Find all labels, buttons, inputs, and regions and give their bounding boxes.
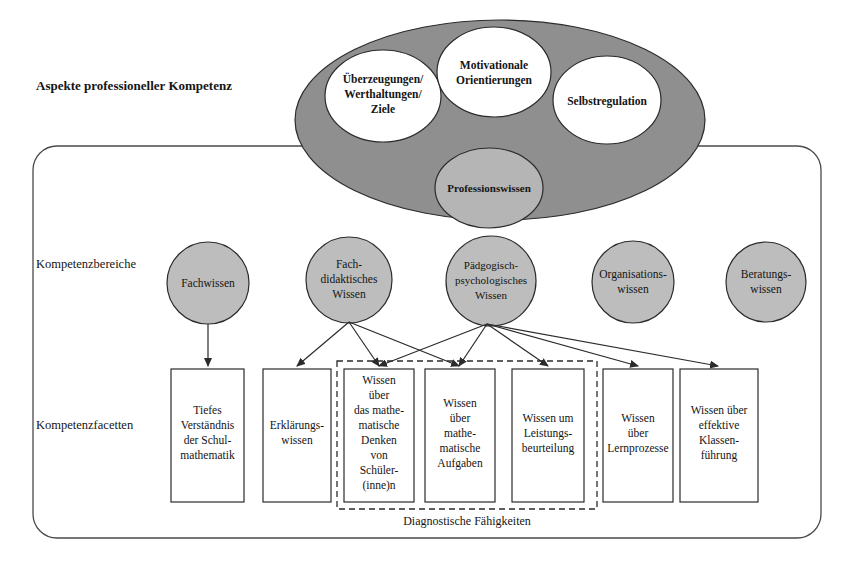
facet-box-mathematische-aufgaben-line-3: matische bbox=[440, 442, 481, 454]
competence-circle-beratungswissen-line-0: Beratungs- bbox=[741, 268, 792, 281]
facet-box-mathematische-aufgaben-line-4: Aufgaben bbox=[437, 457, 483, 470]
facet-box-erklaerungswissen: Erklärungs- wissen bbox=[263, 369, 331, 502]
competence-circle-paedgogisch-psychologisches-wissen-line-1: psychologisches bbox=[455, 274, 527, 286]
facet-box-mathematisches-denken-line-1: über bbox=[369, 389, 390, 401]
aspect-ellipse-motivationale-line-1: Orientierungen bbox=[456, 74, 533, 87]
facet-box-klassenfuehrung-line-1: effektive bbox=[699, 419, 740, 431]
facet-box-mathematisches-denken-line-4: Denken bbox=[361, 434, 397, 446]
competence-circle-fachwissen: Fachwissen bbox=[167, 242, 249, 324]
facet-box-leistungsbeurteilung-line-2: beurteilung bbox=[522, 442, 575, 455]
arrow-paedgogisch-to-lernprozesse bbox=[487, 324, 638, 366]
facet-box-lernprozesse: Wissen über Lernprozesse bbox=[603, 369, 673, 502]
arrow-paedgogisch-to-mathematisches-denken bbox=[379, 324, 487, 366]
facet-box-mathematisches-denken: Wissen über das mathe- matische Denken v… bbox=[344, 369, 414, 502]
facet-box-leistungsbeurteilung: Wissen um Leistungs- beurteilung bbox=[512, 369, 584, 502]
facet-box-klassenfuehrung-line-2: Klassen- bbox=[699, 434, 739, 446]
facet-box-erklaerungswissen-line-0: Erklärungs- bbox=[270, 419, 324, 432]
aspect-ellipse-selbstregulation: Selbstregulation bbox=[553, 56, 661, 144]
competence-circle-paedgogisch-psychologisches-wissen-line-2: Wissen bbox=[475, 289, 507, 301]
facet-box-mathematische-aufgaben-line-0: Wissen bbox=[443, 397, 477, 409]
competence-circle-beratungswissen-line-1: wissen bbox=[750, 283, 782, 295]
facet-box-tiefes-verstaendnis-line-3: mathematik bbox=[180, 449, 235, 461]
facet-box-lernprozesse-line-1: über bbox=[628, 427, 649, 439]
facet-box-tiefes-verstaendnis-line-1: Verständnis bbox=[181, 419, 235, 431]
arrow-paedgogisch-to-mathematische-aufgaben bbox=[459, 324, 487, 366]
facet-box-tiefes-verstaendnis-line-2: der Schul- bbox=[184, 434, 232, 446]
competence-circle-fachwissen-line-0: Fachwissen bbox=[181, 277, 235, 289]
competence-circle-organisationswissen-line-1: wissen bbox=[617, 283, 649, 295]
facet-box-mathematische-aufgaben: Wissen über mathe- matische Aufgaben bbox=[425, 369, 495, 502]
competence-circle-fachdidaktisches-wissen-line-2: Wissen bbox=[332, 288, 366, 300]
facet-box-lernprozesse-line-0: Wissen bbox=[621, 412, 655, 424]
facet-box-klassenfuehrung: Wissen über effektive Klassen- führung bbox=[680, 369, 758, 502]
arrow-paedgogisch-to-klassenfuehrung bbox=[487, 324, 718, 366]
competence-circle-beratungswissen: Beratungs- wissen bbox=[726, 242, 806, 322]
competence-circle-fachdidaktisches-wissen: Fach- didaktisches Wissen bbox=[306, 237, 392, 323]
competence-circle-fachdidaktisches-wissen-line-0: Fach- bbox=[336, 258, 362, 270]
diagram-canvas: Aspekte professioneller Kompetenz Kompet… bbox=[0, 0, 852, 566]
professionswissen-ellipse: Professionswissen bbox=[435, 148, 543, 228]
facet-box-erklaerungswissen-line-1: wissen bbox=[281, 434, 313, 446]
aspect-ellipse-motivationale: Motivationale Orientierungen bbox=[437, 27, 551, 117]
aspect-ellipse-ueberzeugungen-line-0: Überzeugungen/ bbox=[343, 72, 424, 86]
professionswissen-label: Professionswissen bbox=[447, 182, 531, 194]
facet-box-mathematische-aufgaben-line-2: mathe- bbox=[444, 427, 476, 439]
facet-box-mathematisches-denken-line-6: Schüler- bbox=[360, 464, 399, 476]
aspect-ellipse-ueberzeugungen-line-1: Werthaltungen/ bbox=[344, 88, 422, 101]
facet-box-klassenfuehrung-line-0: Wissen über bbox=[691, 404, 748, 416]
arrow-paedgogisch-to-leistungsbeurteilung bbox=[487, 324, 548, 366]
facet-box-mathematisches-denken-line-0: Wissen bbox=[362, 374, 396, 386]
facet-box-leistungsbeurteilung-line-1: Leistungs- bbox=[524, 427, 573, 440]
competence-circle-fachdidaktisches-wissen-line-1: didaktisches bbox=[321, 273, 378, 285]
competence-circle-organisationswissen-line-0: Organisations- bbox=[599, 268, 667, 281]
facet-box-lernprozesse-line-2: Lernprozesse bbox=[607, 442, 668, 455]
competence-circle-paedgogisch-psychologisches-wissen: Pädgogisch- psychologisches Wissen bbox=[446, 236, 536, 326]
facet-box-mathematische-aufgaben-line-1: über bbox=[450, 412, 471, 424]
aspect-ellipse-ueberzeugungen-line-2: Ziele bbox=[371, 103, 395, 115]
diagnostische-faehigkeiten-label: Diagnostische Fähigkeiten bbox=[403, 514, 531, 528]
facet-box-mathematisches-denken-line-2: das mathe- bbox=[354, 404, 404, 416]
facet-box-leistungsbeurteilung-line-0: Wissen um bbox=[523, 412, 574, 424]
facet-box-tiefes-verstaendnis-line-0: Tiefes bbox=[193, 404, 222, 416]
facet-box-tiefes-verstaendnis: Tiefes Verständnis der Schul- mathematik bbox=[171, 369, 244, 502]
facet-box-klassenfuehrung-line-3: führung bbox=[701, 449, 738, 462]
facet-box-mathematisches-denken-line-5: von bbox=[370, 449, 388, 461]
aspect-ellipse-motivationale-line-0: Motivationale bbox=[460, 59, 528, 71]
competence-circle-paedgogisch-psychologisches-wissen-line-0: Pädgogisch- bbox=[464, 259, 519, 271]
aspect-ellipse-ueberzeugungen: Überzeugungen/ Werthaltungen/ Ziele bbox=[325, 50, 441, 142]
facet-box-mathematisches-denken-line-3: matische bbox=[359, 419, 400, 431]
facet-box-mathematisches-denken-line-7: (inne)n bbox=[362, 479, 395, 492]
arrow-fachdidaktisches-to-erklaerungswissen bbox=[297, 322, 349, 366]
competence-circle-organisationswissen: Organisations- wissen bbox=[592, 241, 674, 323]
aspect-ellipse-selbstregulation-line-0: Selbstregulation bbox=[567, 95, 647, 108]
arrow-fachdidaktisches-to-mathematische-aufgaben bbox=[349, 322, 459, 366]
